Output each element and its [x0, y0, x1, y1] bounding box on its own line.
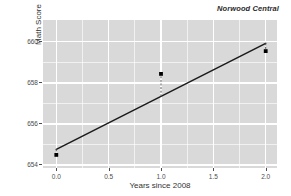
plot-data-layer: [43, 20, 277, 168]
plot-panel: [43, 20, 277, 168]
x-tick-mark-0.5: [109, 168, 110, 171]
y-tick-label-656: 656: [27, 120, 38, 127]
data-point: [54, 153, 58, 157]
x-tick-label-2.0: 2.0: [261, 173, 270, 180]
y-axis-ticks: 660 658 656 654: [0, 20, 38, 168]
x-tick-mark-1.5: [213, 168, 214, 171]
x-tick-label-1.0: 1.0: [156, 173, 165, 180]
x-tick-label-0.5: 0.5: [104, 173, 113, 180]
x-axis-ticks: 0.0 0.5 1.0 1.5 2.0: [43, 168, 277, 182]
y-tick-mark-660: [39, 41, 42, 42]
data-point: [264, 49, 268, 53]
y-tick-label-654: 654: [27, 161, 38, 168]
x-tick-mark-1.0: [161, 168, 162, 171]
chart-figure: Norwood Central Math Score: [0, 0, 291, 196]
y-tick-mark-656: [39, 123, 42, 124]
x-axis-title: Years since 2008: [43, 181, 277, 190]
y-tick-mark-658: [39, 82, 42, 83]
y-tick-label-660: 660: [27, 38, 38, 45]
y-tick-mark-654: [39, 164, 42, 165]
x-tick-label-1.5: 1.5: [209, 173, 218, 180]
y-tick-label-658: 658: [27, 79, 38, 86]
data-point: [159, 72, 163, 76]
x-tick-mark-0.0: [56, 168, 57, 171]
x-tick-mark-2.0: [266, 168, 267, 171]
x-tick-label-0.0: 0.0: [52, 173, 61, 180]
plot-title: Norwood Central: [217, 4, 279, 13]
